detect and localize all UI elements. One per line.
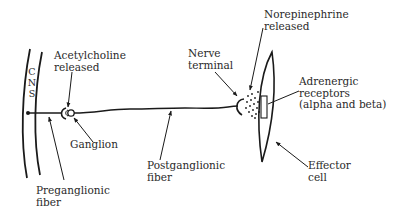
acetylcholine-released-label: Acetylcholine released bbox=[54, 50, 126, 73]
norepinephrine-released-label: Norepinephrine released bbox=[264, 9, 349, 32]
cns-label: C N S bbox=[27, 66, 37, 99]
ganglion-label: Ganglion bbox=[70, 139, 118, 151]
nerve-terminal bbox=[237, 99, 244, 115]
effector-cell-label: Effector cell bbox=[308, 160, 351, 183]
neuron-pathway-diagram: C N S Acetylcholine released Ganglion Pr… bbox=[0, 0, 402, 217]
ganglion bbox=[62, 108, 75, 119]
postganglionic-fiber bbox=[74, 106, 238, 113]
cns-letter-n: N bbox=[27, 77, 37, 88]
cns-letter-s: S bbox=[27, 88, 37, 99]
adrenergic-receptors-label: Adrenergic receptors (alpha and beta) bbox=[299, 76, 386, 111]
norepinephrine-dots bbox=[245, 91, 260, 119]
postganglionic-fiber-label: Postganglionic fiber bbox=[147, 160, 225, 183]
adrenergic-receptor bbox=[261, 96, 267, 118]
preganglionic-fiber-label: Preganglionic fiber bbox=[36, 185, 110, 208]
cns-letter-c: C bbox=[27, 66, 37, 77]
nerve-terminal-label: Nerve terminal bbox=[188, 48, 233, 71]
preganglionic-fiber bbox=[26, 111, 61, 115]
